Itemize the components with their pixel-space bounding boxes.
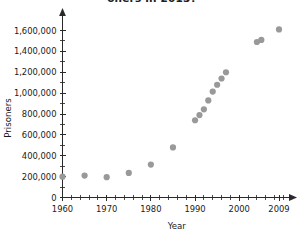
y-tick-label: 1,400,000 (14, 46, 57, 56)
data-point (104, 174, 110, 180)
y-axis-title: Prisoners (3, 98, 13, 138)
y-axis-arrow-icon (59, 8, 66, 16)
y-tick-label: 800,000 (22, 109, 57, 119)
data-point (214, 82, 220, 88)
x-tick-label: 1960 (52, 204, 73, 214)
data-point (258, 37, 264, 43)
y-tick-label: 1,200,000 (14, 67, 57, 77)
data-point (223, 69, 229, 75)
x-axis-arrow-icon (289, 194, 297, 201)
data-point (210, 88, 216, 94)
data-point (205, 97, 211, 103)
y-tick-label: 400,000 (22, 151, 57, 161)
data-point (126, 170, 132, 176)
x-tick-label: 2000 (229, 204, 250, 214)
y-tick-label: 200,000 (22, 172, 57, 182)
data-point (81, 172, 87, 178)
data-point (192, 117, 198, 123)
y-axis-tick-labels: 0200,000400,000600,000800,0001,000,0001,… (14, 26, 57, 203)
x-tick-label: 1990 (184, 204, 205, 214)
data-point (201, 106, 207, 112)
plot-area: 0200,000400,000600,000800,0001,000,0001,… (0, 0, 304, 241)
x-axis-tick-labels: 196019701980199020002009 (52, 204, 290, 214)
data-point (276, 26, 282, 32)
data-point (148, 162, 154, 168)
prisoners-scatter-chart: oners in 2013? 0200,000400,000600,000800… (0, 0, 304, 241)
y-tick-label: 1,000,000 (14, 88, 57, 98)
data-point (170, 144, 176, 150)
data-point-series (59, 26, 282, 180)
x-tick-label: 1970 (96, 204, 117, 214)
y-tick-label: 600,000 (22, 130, 57, 140)
data-point (59, 174, 65, 180)
x-axis-title: Year (167, 221, 187, 231)
data-point (218, 75, 224, 81)
y-tick-label: 1,600,000 (14, 26, 57, 36)
y-tick-label: 0 (51, 193, 56, 203)
x-tick-label: 2009 (268, 204, 289, 214)
data-point (196, 112, 202, 118)
x-tick-label: 1980 (140, 204, 161, 214)
